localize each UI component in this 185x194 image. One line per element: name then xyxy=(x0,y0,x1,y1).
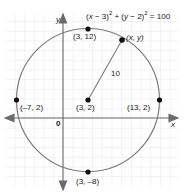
bottom-point-label: (3, –8) xyxy=(76,178,99,186)
equation-minus-h: − 3) xyxy=(93,12,109,21)
x-axis-label: x xyxy=(171,121,175,129)
equation-minus-k: − 2) xyxy=(128,12,144,21)
point-bottom xyxy=(85,169,90,174)
equation-equals: = 100 xyxy=(148,12,170,21)
y-axis-label: y xyxy=(56,16,60,24)
point-general-xy xyxy=(119,37,125,43)
radius-length-label: 10 xyxy=(111,70,120,78)
point-top xyxy=(85,26,90,31)
right-point-label: (13, 2) xyxy=(127,104,150,112)
left-point-label: (–7, 2) xyxy=(20,104,43,112)
equation-plus: + ( xyxy=(112,12,124,21)
circle-equation: (x − 3)2 + (y − 2)2 = 100 xyxy=(86,13,170,21)
top-point-label: (3, 12) xyxy=(73,33,96,41)
point-center xyxy=(85,97,90,102)
graph-canvas xyxy=(0,0,185,194)
center-point-label: (3, 2) xyxy=(76,104,95,112)
general-point-label: (x, y) xyxy=(126,34,144,42)
circle-graph-figure: (x − 3)2 + (y − 2)2 = 100 y x 0 (3, 12) … xyxy=(0,0,185,194)
origin-label: 0 xyxy=(56,120,60,128)
point-right xyxy=(157,97,162,102)
point-left xyxy=(14,97,19,102)
